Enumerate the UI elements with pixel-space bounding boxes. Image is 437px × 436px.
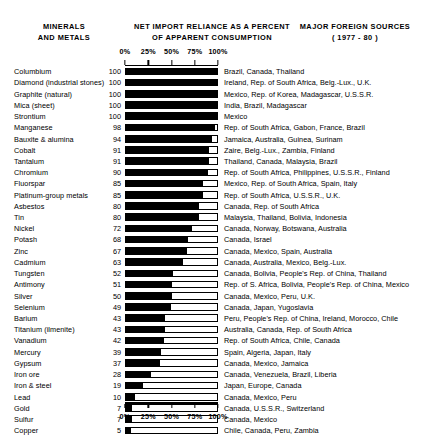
axis-tick-mark [148, 404, 149, 409]
row-label-mineral: Manganese [14, 123, 53, 132]
row-foreign-sources: Rep. of South Africa, Gabon, France, Bra… [224, 123, 365, 132]
row-bar-track [125, 393, 218, 401]
row-bar-track [125, 135, 218, 143]
chart-row: Barium43Peru, People's Rep. of China, Ir… [0, 313, 437, 324]
row-label-mineral: Selenium [14, 303, 45, 312]
row-bar-track [125, 180, 218, 188]
axis-tick-mark [171, 404, 172, 409]
column-heading-minerals-line2: AND METALS [14, 33, 114, 44]
row-value-percent: 100 [95, 112, 121, 121]
row-label-mineral: Mica (sheet) [14, 101, 55, 110]
axis-tick-label: 100% [208, 47, 227, 56]
chart-row: Manganese98Rep. of South Africa, Gabon, … [0, 122, 437, 133]
row-bar-track [125, 427, 218, 435]
chart-row: Fluorspar85Mexico, Rep. of South Africa,… [0, 178, 437, 189]
row-value-percent: 43 [95, 314, 121, 323]
row-value-percent: 39 [95, 348, 121, 357]
row-bar-fill [126, 80, 217, 86]
row-label-mineral: Platinum-group metals [14, 191, 88, 200]
row-foreign-sources: Zaire, Belg.-Lux., Zambia, Finland [224, 146, 335, 155]
row-bar-fill [126, 428, 131, 434]
row-foreign-sources: Spain, Algeria, Japan, Italy [224, 348, 311, 357]
row-bar-fill [126, 226, 192, 232]
row-foreign-sources: Canada, Mexico, Peru [224, 393, 297, 402]
row-bar-fill [126, 102, 217, 108]
chart-row: Selenium49Canada, Japan, Yugoslavia [0, 302, 437, 313]
row-value-percent: 19 [95, 381, 121, 390]
row-foreign-sources: Ireland, Rep. of South Africa, Belg.-Lux… [224, 78, 371, 87]
row-value-percent: 50 [95, 292, 121, 301]
row-bar-fill [126, 214, 199, 220]
chart-row: Strontium100Mexico [0, 111, 437, 122]
row-foreign-sources: Peru, People's Rep. of China, Ireland, M… [224, 314, 398, 323]
row-value-percent: 100 [95, 78, 121, 87]
axis-tick-mark [124, 60, 125, 65]
row-bar-track [125, 303, 218, 311]
chart-row: Silver50Canada, Mexico, Peru, U.K. [0, 290, 437, 301]
chart-row: Graphite (natural)100Mexico, Rep. of Kor… [0, 88, 437, 99]
row-bar-fill [126, 315, 165, 321]
row-value-percent: 43 [95, 325, 121, 334]
row-bar-track [125, 157, 218, 165]
axis-tick-mark [194, 60, 195, 65]
row-bar-fill [126, 113, 217, 119]
chart-row: Titanium (ilmenite)43Australia, Canada, … [0, 324, 437, 335]
row-label-mineral: Potash [14, 235, 37, 244]
chart-row: Gypsum37Canada, Mexico, Jamaica [0, 358, 437, 369]
row-value-percent: 98 [95, 123, 121, 132]
row-value-percent: 68 [95, 235, 121, 244]
chart-row: Zinc67Canada, Mexico, Spain, Australia [0, 246, 437, 257]
row-bar-fill [126, 360, 160, 366]
column-heading-sources: MAJOR FOREIGN SOURCES ( 1977 - 80 ) [280, 22, 430, 43]
row-bar-track [125, 101, 218, 109]
chart-page: MINERALS AND METALS NET IMPORT RELIANCE … [0, 0, 437, 436]
chart-row: Copper5Chile, Canada, Peru, Zambia [0, 425, 437, 436]
row-value-percent: 100 [95, 90, 121, 99]
chart-row: Cadmium63Canada, Australia, Mexico, Belg… [0, 257, 437, 268]
chart-row: Iron ore28Canada, Venezuela, Brazil, Lib… [0, 369, 437, 380]
axis-tick-mark [124, 404, 125, 409]
row-label-mineral: Chromium [14, 168, 48, 177]
row-value-percent: 52 [95, 269, 121, 278]
row-bar-fill [126, 271, 173, 277]
row-bar-fill [126, 147, 209, 153]
chart-row: Tin80Malaysia, Thailand, Bolivia, Indone… [0, 212, 437, 223]
row-bar-fill [126, 69, 217, 75]
row-bar-track [125, 112, 218, 120]
chart-row: Mica (sheet)100India, Brazil, Madagascar [0, 100, 437, 111]
row-bar-track [125, 382, 218, 390]
axis-labels-bottom: 0%25%50%75%100% [0, 412, 437, 422]
axis-tick-mark [194, 404, 195, 409]
row-value-percent: 91 [95, 157, 121, 166]
row-foreign-sources: Canada, Norway, Botswana, Australia [224, 224, 347, 233]
row-label-mineral: Columbium [14, 67, 51, 76]
chart-rows: Columbium100Brazil, Canada, ThailandDiam… [0, 66, 437, 436]
row-bar-track [125, 359, 218, 367]
row-bar-fill [126, 248, 187, 254]
row-value-percent: 90 [95, 168, 121, 177]
axis-tick-mark [217, 60, 218, 65]
row-foreign-sources: Canada, Japan, Yugoslavia [224, 303, 313, 312]
axis-tick-label: 75% [187, 412, 202, 421]
row-label-mineral: Diamond (industrial stones) [14, 78, 104, 87]
row-label-mineral: Fluorspar [14, 179, 45, 188]
row-foreign-sources: Australia, Canada, Rep. of South Africa [224, 325, 352, 334]
axis-tick-label: 50% [164, 47, 179, 56]
row-bar-fill [126, 125, 215, 131]
row-label-mineral: Mercury [14, 348, 41, 357]
row-bar-track [125, 236, 218, 244]
axis-labels-top: 0%25%50%75%100% [0, 47, 437, 57]
chart-row: Nickel72Canada, Norway, Botswana, Austra… [0, 223, 437, 234]
row-foreign-sources: Rep. of South Africa, U.S.S.R., U.K. [224, 191, 340, 200]
row-foreign-sources: Mexico, Rep. of South Africa, Spain, Ita… [224, 179, 357, 188]
chart-row: Tungsten52Canada, Bolivia, People's Rep.… [0, 268, 437, 279]
row-foreign-sources: Jamaica, Australia, Guinea, Surinam [224, 135, 343, 144]
row-foreign-sources: Japan, Europe, Canada [224, 381, 302, 390]
chart-row: Antimony51Rep. of S. Africa, Bolivia, Pe… [0, 279, 437, 290]
axis-tick-label: 50% [164, 412, 179, 421]
row-bar-track [125, 258, 218, 266]
row-bar-track [125, 292, 218, 300]
row-bar-track [125, 371, 218, 379]
row-label-mineral: Iron ore [14, 370, 40, 379]
row-bar-track [125, 326, 218, 334]
